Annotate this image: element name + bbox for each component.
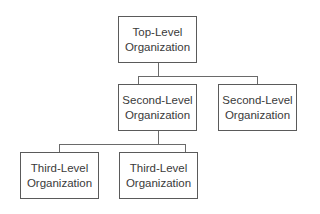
node-label-line1: Third-Level	[31, 161, 89, 176]
connector-to-second-right	[257, 76, 258, 84]
node-second-level-right: Second-Level Organization	[218, 84, 297, 131]
node-second-level-left: Second-Level Organization	[118, 84, 197, 131]
node-third-level-right: Third-Level Organization	[119, 152, 198, 199]
node-label-line2: Organization	[225, 108, 290, 123]
node-label-line1: Third-Level	[130, 161, 188, 176]
node-label-line2: Organization	[27, 176, 92, 191]
node-label-line1: Second-Level	[222, 93, 292, 108]
node-label-line1: Top-Level	[133, 25, 183, 40]
node-label-line2: Organization	[126, 176, 191, 191]
connector-second-level-bus	[138, 76, 258, 77]
connector-top-down	[158, 63, 159, 77]
node-label-line2: Organization	[125, 40, 190, 55]
node-third-level-left: Third-Level Organization	[20, 152, 99, 199]
node-label-line2: Organization	[125, 108, 190, 123]
node-top-level: Top-Level Organization	[118, 16, 197, 63]
connector-third-level-bus	[59, 144, 186, 145]
connector-second-left-down	[158, 131, 159, 145]
node-label-line1: Second-Level	[122, 93, 192, 108]
connector-to-second-left	[138, 76, 139, 84]
connector-to-third-right	[185, 144, 186, 152]
connector-to-third-left	[59, 144, 60, 152]
